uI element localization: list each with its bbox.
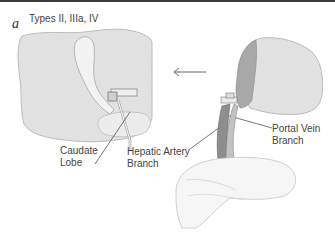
left-liver-icon [18,29,152,150]
hepatic-leader [190,127,220,149]
label-line: Branch [272,135,320,147]
portal-vein-label: Portal Vein Branch [272,123,320,147]
hepatic-artery-label: Hepatic Artery Branch [127,146,190,170]
arrow-left-icon [174,68,206,76]
label-line: Portal Vein [272,123,320,135]
label-line: Hepatic Artery [127,146,190,158]
caudate-lobe-label: Caudate Lobe [60,145,98,169]
liver-illustration [0,0,335,233]
label-line: Caudate [60,145,98,157]
label-line: Lobe [60,157,98,169]
label-line: Branch [127,158,190,170]
